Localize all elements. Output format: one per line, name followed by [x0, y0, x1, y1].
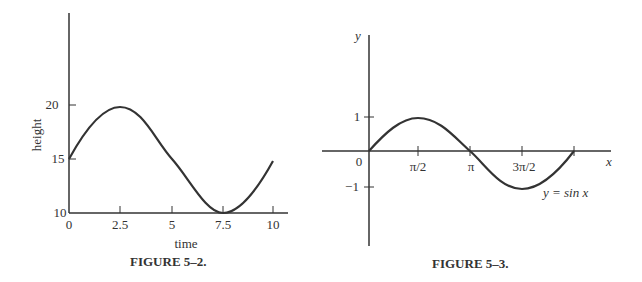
fig2-ytick-10: 10: [54, 205, 67, 220]
fig2-caption: FIGURE 5–2.: [130, 254, 207, 270]
fig3-ylabel: y: [353, 28, 361, 43]
fig2-xtick-5: 5: [169, 217, 176, 232]
fig3-annotation: y = sin x: [541, 185, 588, 200]
fig2-xtick-7-5: 7.5: [215, 217, 231, 232]
fig3-xlabel: x: [605, 154, 612, 169]
fig3-sine-curve: [369, 118, 574, 189]
fig2-xlabel: time: [174, 236, 197, 251]
figures-canvas: 20 15 10 0 2.5 5 7.5 10 time height y 1 …: [0, 0, 642, 282]
figure-5-3: [322, 35, 611, 246]
fig2-ylabel: height: [29, 118, 44, 151]
fig2-ytick-15: 15: [52, 151, 65, 166]
fig3-xtick-3pi-over-2: 3π/2: [512, 159, 535, 174]
fig3-xtick-pi: π: [468, 159, 475, 174]
fig2-xtick-0: 0: [66, 217, 73, 232]
fig3-ytick-neg1: −1: [345, 179, 359, 194]
fig2-xtick-10: 10: [267, 217, 280, 232]
fig2-xtick-2-5: 2.5: [112, 217, 128, 232]
figure-5-2: [69, 13, 288, 213]
fig2-ytick-20: 20: [46, 97, 59, 112]
fig3-xtick-pi-over-2: π/2: [410, 159, 427, 174]
fig3-origin-label: 0: [356, 154, 363, 169]
fig3-ytick-1: 1: [354, 109, 361, 124]
fig3-caption: FIGURE 5–3.: [432, 256, 509, 272]
fig2-curve: [69, 107, 273, 213]
